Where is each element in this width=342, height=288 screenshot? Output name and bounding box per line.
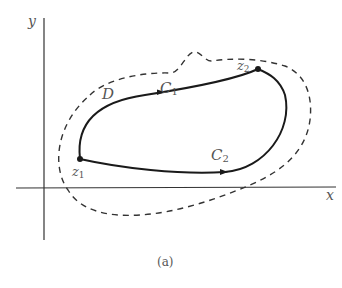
point-z2 (255, 66, 261, 72)
figure-caption: (a) (157, 255, 174, 269)
point-z1 (77, 156, 83, 162)
c1-label: C1 (160, 79, 178, 97)
x-axis (16, 187, 336, 188)
y-axis-label: y (27, 13, 37, 29)
x-axis-label: x (326, 187, 334, 203)
c2-label: C2 (211, 146, 229, 164)
z2-label: z2 (236, 58, 250, 74)
region-d-label: D (101, 85, 114, 103)
z1-label: z1 (71, 164, 85, 180)
c2-arrow-icon (220, 169, 228, 175)
diagram-canvas: y x D C1 C2 z1 z2 (a) (0, 0, 342, 288)
